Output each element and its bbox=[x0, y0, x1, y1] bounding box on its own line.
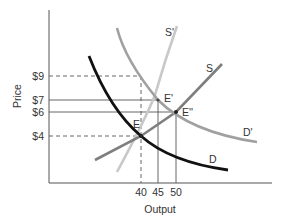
label-e-double-prime: E'' bbox=[182, 106, 193, 118]
label-e-prime: E' bbox=[164, 92, 173, 104]
y-axis-title: Price bbox=[11, 84, 23, 108]
y-tick-6: $6 bbox=[32, 106, 44, 118]
y-tick-7: $7 bbox=[32, 94, 44, 106]
y-tick-4: $4 bbox=[32, 130, 44, 142]
point-e-double-prime-marker bbox=[174, 110, 178, 114]
label-d-prime: D' bbox=[243, 126, 253, 138]
y-tick-9: $9 bbox=[32, 70, 44, 82]
label-d: D bbox=[209, 153, 217, 165]
label-e: E bbox=[133, 118, 140, 130]
x-tick-50: 50 bbox=[170, 186, 182, 198]
label-s-prime: S' bbox=[165, 26, 174, 38]
supply-demand-diagram: S' S D' D E E' E'' $9 $7 $6 $4 40 45 50 … bbox=[0, 0, 284, 223]
point-e-marker bbox=[139, 134, 143, 138]
x-tick-45: 45 bbox=[152, 186, 164, 198]
x-tick-40: 40 bbox=[135, 186, 147, 198]
label-s: S bbox=[206, 62, 213, 74]
point-e-prime-marker bbox=[156, 98, 159, 101]
x-axis-title: Output bbox=[144, 203, 176, 215]
